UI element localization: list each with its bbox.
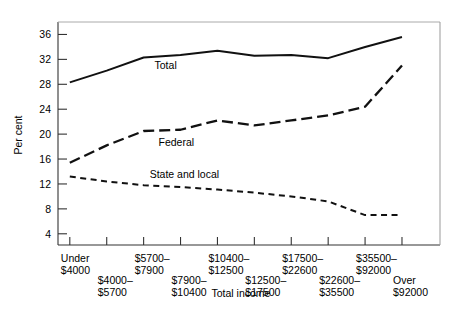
x-category-label-line: $4000–	[98, 274, 133, 286]
x-category-label-line: $10400	[172, 286, 207, 298]
y-tick-label: 8	[45, 203, 51, 215]
series-label-state-and-local: State and local	[150, 168, 219, 180]
y-tick-label: 24	[39, 103, 51, 115]
chart-canvas: 4812162024283236 TotalFederalState and l…	[0, 0, 464, 319]
x-category-label: $22600–$35500	[319, 274, 360, 298]
y-axis-title: Per cent	[12, 115, 24, 154]
y-tick-label: 32	[39, 53, 51, 65]
x-category-label-line: $10400–	[208, 252, 249, 264]
y-tick-label: 36	[39, 28, 51, 40]
x-category-label: $10400–$12500	[208, 252, 249, 276]
x-category-label: $35500–$92000	[356, 252, 397, 276]
y-tick-label: 16	[39, 153, 51, 165]
x-category-label: $7900–$10400	[172, 274, 207, 298]
x-category-label-line: Over	[393, 274, 416, 286]
series-label-federal: Federal	[159, 136, 195, 148]
y-tick-label: 12	[39, 178, 51, 190]
tax-rate-line-chart: 4812162024283236 TotalFederalState and l…	[0, 0, 464, 319]
x-category-label-line: $35500	[319, 286, 354, 298]
y-tick-label: 20	[39, 128, 51, 140]
x-category-label-line: $35500–	[356, 252, 397, 264]
y-tick-label: 28	[39, 78, 51, 90]
x-category-label: $17500–$22600	[282, 252, 323, 276]
x-category-label-line: $4000	[61, 264, 90, 276]
series-label-total: Total	[155, 59, 177, 71]
x-category-label: Under$4000	[61, 252, 90, 276]
x-category-label-line: $7900–	[172, 274, 207, 286]
x-category-label-line: $17500–	[282, 252, 323, 264]
x-category-label-line: $5700	[98, 286, 127, 298]
x-category-label-line: $92000	[356, 264, 391, 276]
x-axis-title: Total income	[212, 287, 271, 299]
x-category-label-line: $22600	[282, 264, 317, 276]
x-category-label-line: $7900	[135, 264, 164, 276]
x-category-label-line: $12500–	[245, 274, 286, 286]
x-category-label-line: $22600–	[319, 274, 360, 286]
x-category-label-line: $12500	[208, 264, 243, 276]
x-category-label-line: $92000	[393, 286, 428, 298]
y-tick-label: 4	[45, 228, 51, 240]
x-category-label-line: $5700–	[135, 252, 170, 264]
x-category-label-line: Under	[61, 252, 90, 264]
